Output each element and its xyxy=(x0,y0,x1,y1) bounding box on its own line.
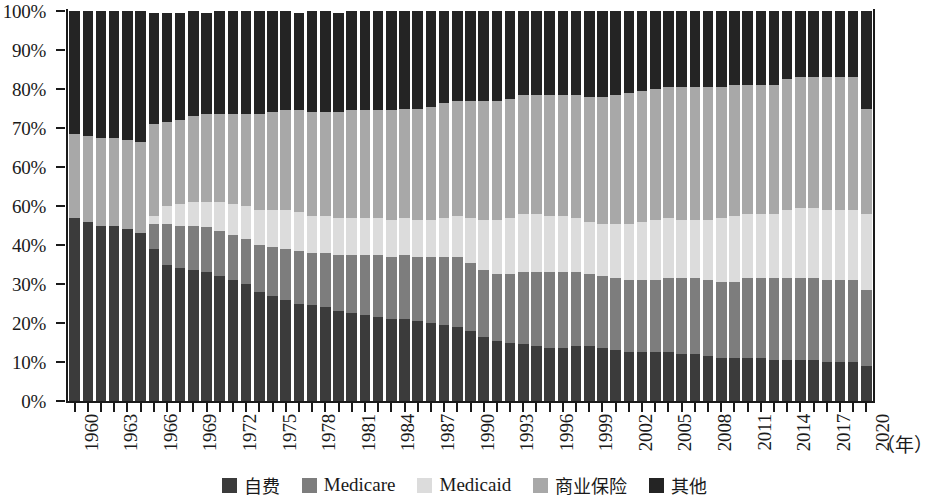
bar-segment xyxy=(307,253,318,306)
legend-item[interactable]: Medicaid xyxy=(417,474,511,496)
bar-segment xyxy=(848,11,859,77)
x-tick-mark xyxy=(232,403,234,412)
bar-segment xyxy=(373,317,384,401)
x-tick-mark xyxy=(338,403,340,412)
bar-segment xyxy=(544,272,555,348)
bar-segment xyxy=(465,101,476,218)
plot-area xyxy=(68,11,873,401)
bar-segment xyxy=(412,321,423,401)
bar-segment xyxy=(663,218,674,278)
x-tick-label: 1996 xyxy=(557,414,576,451)
bar-segment xyxy=(861,11,872,109)
bar-segment xyxy=(294,212,305,251)
bar-1998 xyxy=(571,11,582,401)
y-tick-mark xyxy=(56,400,65,402)
bar-segment xyxy=(109,11,120,138)
bar-segment xyxy=(307,216,318,253)
y-tick-label: 70% xyxy=(12,119,46,138)
x-tick-mark xyxy=(206,403,208,412)
bar-segment xyxy=(676,278,687,354)
bar-segment xyxy=(716,87,727,218)
bar-segment xyxy=(267,11,278,112)
bar-segment xyxy=(861,109,872,214)
bar-segment xyxy=(690,87,701,220)
legend-item[interactable]: 自费 xyxy=(222,472,280,498)
bar-segment xyxy=(558,216,569,273)
bar-segment xyxy=(228,204,239,235)
bar-1986 xyxy=(412,11,423,401)
bar-segment xyxy=(320,307,331,401)
bar-segment xyxy=(439,11,450,103)
bar-segment xyxy=(175,204,186,225)
bar-segment xyxy=(637,352,648,401)
bar-segment xyxy=(267,296,278,401)
bar-segment xyxy=(478,337,489,401)
bar-segment xyxy=(162,13,173,122)
bar-segment xyxy=(795,208,806,278)
bar-segment xyxy=(597,276,608,348)
bar-segment xyxy=(505,343,516,402)
bar-segment xyxy=(320,253,331,308)
bar-segment xyxy=(822,362,833,401)
bar-1961 xyxy=(83,11,94,401)
bar-segment xyxy=(346,255,357,314)
y-tick-label: 100% xyxy=(3,2,46,21)
x-tick-mark xyxy=(733,403,735,412)
bar-segment xyxy=(795,11,806,77)
bar-segment xyxy=(558,11,569,95)
bar-segment xyxy=(280,210,291,249)
x-tick-mark xyxy=(470,403,472,412)
bar-segment xyxy=(835,210,846,280)
x-tick-mark xyxy=(615,403,617,412)
x-tick-mark xyxy=(324,403,326,412)
bar-segment xyxy=(808,360,819,401)
bar-segment xyxy=(848,280,859,362)
x-tick-mark xyxy=(390,403,392,412)
bar-segment xyxy=(822,11,833,77)
bar-segment xyxy=(188,226,199,271)
bar-segment xyxy=(742,85,753,214)
bar-1988 xyxy=(439,11,450,401)
x-tick-label: 1960 xyxy=(82,414,101,451)
bar-segment xyxy=(650,89,661,220)
bar-segment xyxy=(426,257,437,323)
x-tick-mark xyxy=(285,403,287,412)
bar-segment xyxy=(83,222,94,401)
bar-2006 xyxy=(676,11,687,401)
bar-segment xyxy=(742,214,753,278)
bar-2015 xyxy=(795,11,806,401)
bar-segment xyxy=(83,11,94,136)
bar-segment xyxy=(386,11,397,110)
x-tick-label: 1981 xyxy=(359,414,378,451)
bar-segment xyxy=(663,352,674,401)
legend-item[interactable]: 其他 xyxy=(649,472,707,498)
bar-segment xyxy=(412,257,423,321)
bar-segment xyxy=(214,11,225,114)
bar-1969 xyxy=(188,11,199,401)
bar-segment xyxy=(162,206,173,224)
legend-item[interactable]: Medicare xyxy=(302,474,396,496)
bar-1974 xyxy=(254,11,265,401)
bar-1964 xyxy=(122,11,133,401)
bar-segment xyxy=(439,103,450,218)
x-tick-mark xyxy=(799,403,801,412)
bar-segment xyxy=(214,231,225,276)
bar-segment xyxy=(663,278,674,352)
bar-segment xyxy=(584,97,595,222)
bar-segment xyxy=(769,85,780,214)
x-axis-labels: 1960196319661969197219751978198119841987… xyxy=(0,414,929,468)
bar-1983 xyxy=(373,11,384,401)
bar-segment xyxy=(412,109,423,220)
bar-segment xyxy=(109,138,120,226)
bar-segment xyxy=(162,265,173,402)
bar-segment xyxy=(373,218,384,255)
x-tick-label: 2011 xyxy=(755,414,774,451)
bar-segment xyxy=(452,216,463,257)
x-tick-mark xyxy=(575,403,577,412)
bar-segment xyxy=(188,202,199,225)
bar-1987 xyxy=(426,11,437,401)
legend-item[interactable]: 商业保险 xyxy=(533,472,627,498)
bar-2009 xyxy=(716,11,727,401)
bar-segment xyxy=(96,11,107,138)
bar-segment xyxy=(703,220,714,280)
